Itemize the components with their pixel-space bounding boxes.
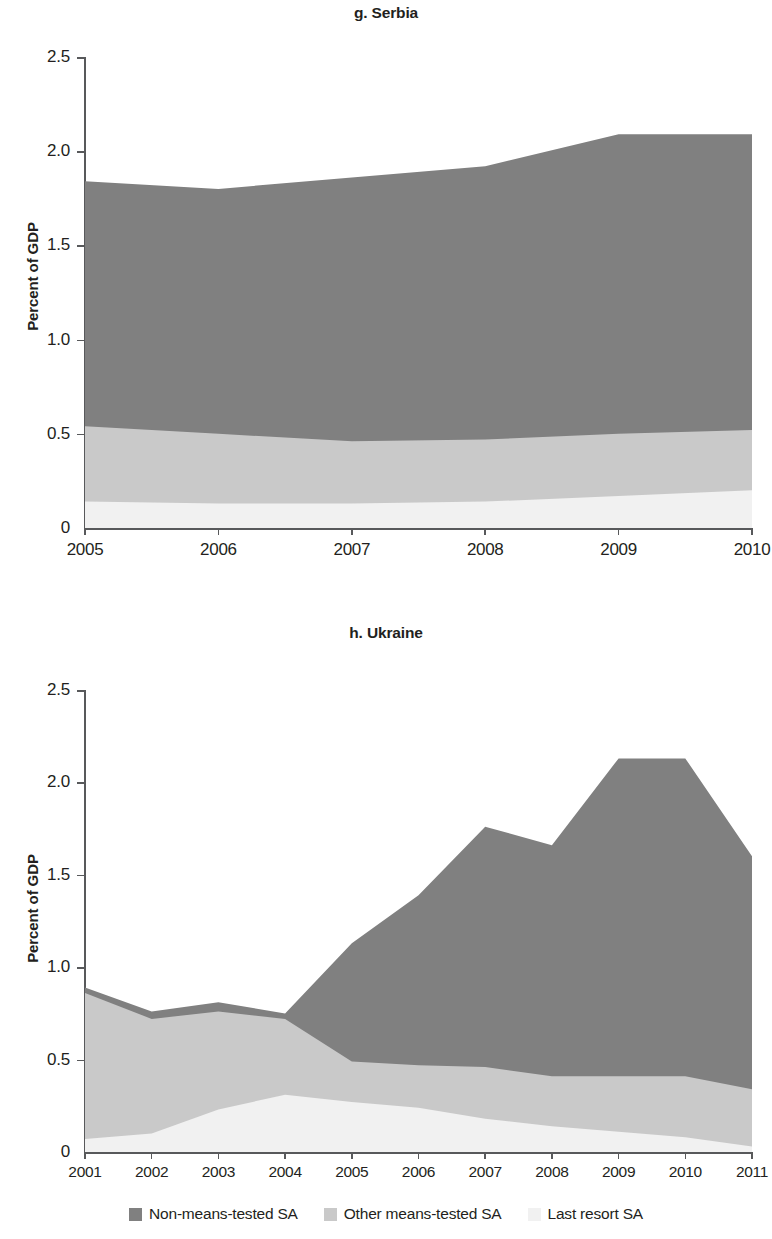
y-tick-label: 0.5: [12, 424, 70, 444]
y-axis-tick: [77, 967, 84, 969]
x-tick-label: 2010: [734, 540, 771, 560]
x-axis-tick: [418, 1152, 420, 1159]
figure-legend: Non-means-tested SAOther means-tested SA…: [0, 1205, 772, 1223]
x-axis-tick: [218, 528, 220, 535]
x-axis-tick: [618, 528, 620, 535]
x-axis-tick: [84, 1152, 86, 1159]
legend-swatch-non-means-tested: [129, 1208, 142, 1221]
y-axis-tick: [77, 340, 84, 342]
x-tick-label: 2002: [135, 1163, 168, 1181]
x-axis-line-serbia: [84, 528, 753, 530]
y-axis-tick: [77, 782, 84, 784]
y-tick-label: 0.5: [12, 1050, 70, 1070]
stacked-area-svg-serbia: [85, 57, 752, 528]
x-tick-labels-serbia: 200520062007200820092010: [0, 540, 772, 566]
legend-item-0: Non-means-tested SA: [129, 1205, 298, 1223]
legend-label: Non-means-tested SA: [149, 1205, 298, 1223]
x-tick-label: 2009: [602, 1163, 635, 1181]
x-axis-tick: [618, 1152, 620, 1159]
x-tick-label: 2009: [600, 540, 637, 560]
x-tick-label: 2008: [535, 1163, 568, 1181]
x-axis-tick: [351, 528, 353, 535]
y-axis-tick: [77, 690, 84, 692]
y-tick-label: 1.5: [12, 865, 70, 885]
x-tick-label: 2003: [202, 1163, 235, 1181]
x-axis-tick: [151, 1152, 153, 1159]
x-axis-tick: [551, 1152, 553, 1159]
x-axis-tick: [685, 1152, 687, 1159]
x-tick-label: 2004: [268, 1163, 301, 1181]
y-tick-label: 2.0: [12, 141, 70, 161]
x-tick-label: 2005: [335, 1163, 368, 1181]
panel-title-serbia: g. Serbia: [0, 4, 772, 22]
y-axis-tick: [77, 151, 84, 153]
y-tick-label: 0: [12, 518, 70, 538]
x-axis-tick: [751, 528, 753, 535]
x-axis-tick: [351, 1152, 353, 1159]
legend-swatch-last-resort: [528, 1208, 541, 1221]
x-axis-tick: [218, 1152, 220, 1159]
x-tick-label: 2007: [333, 540, 370, 560]
panel-title-ukraine: h. Ukraine: [0, 624, 772, 642]
x-tick-label: 2006: [200, 540, 237, 560]
y-axis-tick: [77, 1060, 84, 1062]
y-axis-tick: [77, 434, 84, 436]
legend-item-2: Last resort SA: [528, 1205, 643, 1223]
y-axis-tick: [77, 57, 84, 59]
y-tick-label: 2.0: [12, 772, 70, 792]
x-tick-label: 2001: [68, 1163, 101, 1181]
x-tick-labels-ukraine: 2001200220032004200520062007200820092010…: [0, 1163, 772, 1189]
y-tick-label: 1.5: [12, 235, 70, 255]
x-tick-label: 2006: [402, 1163, 435, 1181]
x-tick-label: 2011: [736, 1163, 768, 1181]
y-tick-label: 1.0: [12, 330, 70, 350]
legend-item-1: Other means-tested SA: [324, 1205, 502, 1223]
x-tick-label: 2010: [669, 1163, 702, 1181]
plot-area-ukraine: [85, 690, 752, 1152]
legend-swatch-other-means-tested: [324, 1208, 337, 1221]
x-tick-label: 2005: [67, 540, 104, 560]
x-axis-tick: [751, 1152, 753, 1159]
x-tick-label: 2007: [469, 1163, 502, 1181]
y-axis-tick: [77, 875, 84, 877]
x-axis-tick: [284, 1152, 286, 1159]
y-tick-label: 0: [12, 1142, 70, 1162]
y-tick-label: 2.5: [12, 680, 70, 700]
y-tick-label: 2.5: [12, 47, 70, 67]
x-axis-tick: [84, 528, 86, 535]
y-axis-tick: [77, 245, 84, 247]
legend-label: Last resort SA: [548, 1205, 643, 1223]
x-axis-tick: [484, 528, 486, 535]
y-axis-title-ukraine: Percent of GDP: [24, 849, 41, 969]
legend-label: Other means-tested SA: [344, 1205, 502, 1223]
y-axis-title-serbia: Percent of GDP: [24, 217, 41, 337]
plot-area-serbia: [85, 57, 752, 528]
x-tick-label: 2008: [467, 540, 504, 560]
y-tick-label: 1.0: [12, 957, 70, 977]
stacked-area-svg-ukraine: [85, 690, 752, 1152]
x-axis-tick: [484, 1152, 486, 1159]
